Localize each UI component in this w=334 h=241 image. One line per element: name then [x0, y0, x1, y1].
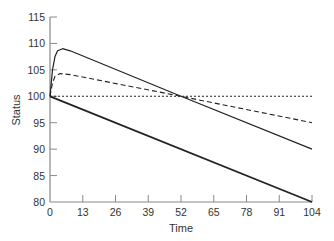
- x-tick-label: 52: [175, 206, 187, 218]
- y-axis-label: Status: [10, 94, 22, 126]
- y-tick-label: 85: [33, 170, 45, 182]
- y-tick-label: 115: [28, 11, 45, 23]
- x-tick-label: 65: [208, 206, 220, 218]
- series-dashed: [50, 74, 312, 123]
- series-lines: [50, 49, 312, 202]
- series-solid-lower: [50, 96, 312, 202]
- x-tick-label: 78: [241, 206, 253, 218]
- y-tick-label: 110: [28, 37, 45, 49]
- y-tick-label: 95: [33, 117, 45, 129]
- y-tick-label: 105: [27, 64, 45, 76]
- x-axis-label: Time: [169, 222, 193, 234]
- x-tick-label: 0: [47, 206, 53, 218]
- x-tick-label: 104: [303, 206, 321, 218]
- x-tick-label: 91: [273, 206, 285, 218]
- y-tick-label: 80: [33, 196, 45, 208]
- series-solid-upper: [50, 49, 312, 149]
- line-chart: 80859095100105110115013263952657891104 T…: [0, 0, 334, 241]
- x-tick-label: 13: [77, 206, 89, 218]
- x-tick-label: 26: [110, 206, 122, 218]
- y-tick-label: 90: [33, 143, 45, 155]
- y-tick-label: 100: [27, 90, 45, 102]
- x-tick-label: 39: [142, 206, 154, 218]
